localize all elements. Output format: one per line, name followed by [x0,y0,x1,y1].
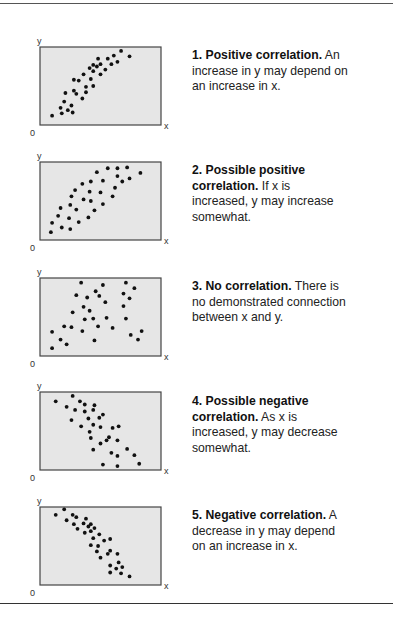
data-point [84,517,88,521]
x-axis-label: x [164,352,169,362]
data-point [82,72,86,76]
panel-title: 4. Possible negative [192,394,309,408]
data-point [120,180,124,184]
data-point [119,49,123,53]
data-point [119,571,123,575]
data-point [101,283,105,287]
data-point [76,527,80,531]
panel-body-text: There is [292,279,339,293]
data-point [73,188,77,192]
data-point [83,410,87,414]
plot-area [40,278,161,356]
data-point [99,442,103,446]
data-point [116,174,120,178]
data-point [116,438,120,442]
data-point [91,536,95,540]
data-point [91,448,95,452]
scatter-plot-1: yx0 [28,35,179,143]
panel-body-text: on an increase in x. [192,539,298,553]
x-axis-label: x [164,581,169,591]
data-point [89,529,93,533]
data-point [137,462,141,466]
description-line: 5. Negative correlation. A [192,508,382,524]
data-point [99,425,103,429]
data-point [108,571,112,575]
data-point [99,62,103,66]
data-point [91,84,95,88]
data-point [65,518,69,522]
data-point [89,436,93,440]
data-point [128,296,132,300]
data-point [111,426,115,430]
origin-label: 0 [30,243,35,253]
panel-body-text: decrease in y may depend [192,524,335,538]
data-point [101,463,105,467]
data-point [109,451,113,455]
data-point [114,567,118,571]
data-point [116,464,120,468]
data-point [99,191,103,195]
data-point [136,338,140,342]
data-point [101,413,105,417]
data-point [65,342,69,346]
plot-area [40,47,161,125]
y-axis-label: y [37,496,42,506]
data-point [88,190,92,194]
data-point [85,296,89,300]
top-rule [0,3,393,4]
panel-body-text: An [322,48,340,62]
data-point [88,430,92,434]
description-line: increase in y may depend on [192,64,382,80]
panel-description-2: 2. Possible positivecorrelation. If x is… [192,163,382,225]
data-point [93,526,97,530]
data-point [91,408,95,412]
panel-body-text: between x and y. [192,310,283,324]
data-point [96,57,100,61]
data-point [89,180,93,184]
x-axis-label: x [164,121,169,131]
data-point [106,552,110,556]
x-axis-label: x [164,236,169,246]
data-point [120,565,124,569]
data-point [103,300,107,304]
data-point [99,72,103,76]
data-point [97,294,101,298]
description-line: on an increase in x. [192,539,382,555]
data-point [101,202,105,206]
data-point [74,515,78,519]
data-point [106,57,110,61]
panel-body-text: If x is [258,179,290,193]
panel-body-text: A [326,508,337,522]
data-point [67,216,71,220]
data-point [78,399,82,403]
data-point [71,394,75,398]
description-line: an increase in x. [192,79,382,95]
origin-label: 0 [30,359,35,369]
panel-description-4: 4. Possible negativecorrelation. As x is… [192,394,382,456]
panel-title: correlation. [192,410,258,424]
data-point [96,324,100,328]
data-point [70,325,74,329]
data-point [132,453,136,457]
data-point [107,435,111,439]
scatter-plot-4: yx0 [28,380,179,488]
bottom-rule [0,603,393,604]
plot-area [40,392,161,470]
data-point [66,108,70,112]
data-point [72,89,76,93]
data-point [99,556,103,560]
data-point [113,186,117,190]
data-point [80,329,84,333]
correlation-panel-2: yx02. Possible positivecorrelation. If x… [0,162,396,272]
y-axis-label: y [37,151,42,161]
panel-body-text: increased, y may decrease [192,425,338,439]
data-point [95,550,99,554]
data-point [108,549,112,553]
data-point [50,346,54,350]
data-point [111,194,115,198]
data-point [80,182,84,186]
data-point [128,176,132,180]
data-point [102,539,106,543]
data-point [140,329,144,333]
data-point [109,62,113,66]
